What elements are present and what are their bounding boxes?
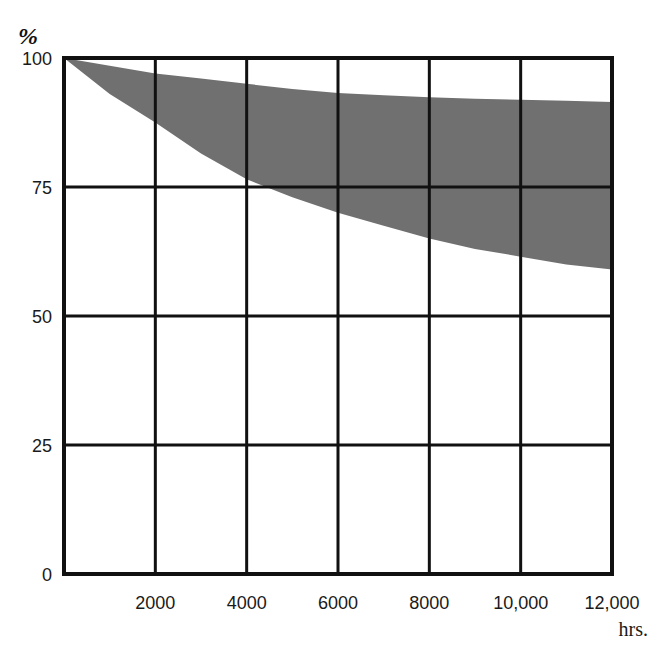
- y-axis-unit-label: %: [18, 23, 38, 49]
- x-tick-label: 4000: [227, 593, 267, 613]
- x-axis-ticks: 200040006000800010,00012,000: [135, 593, 639, 613]
- y-tick-label: 75: [32, 178, 52, 198]
- y-tick-label: 100: [22, 49, 52, 69]
- x-tick-label: 12,000: [584, 593, 639, 613]
- x-tick-label: 6000: [318, 593, 358, 613]
- x-tick-label: 2000: [135, 593, 175, 613]
- x-axis-unit-label: hrs.: [619, 618, 648, 640]
- x-tick-label: 10,000: [493, 593, 548, 613]
- y-tick-label: 0: [42, 565, 52, 585]
- y-tick-label: 50: [32, 307, 52, 327]
- x-tick-label: 8000: [409, 593, 449, 613]
- y-axis-ticks: 0255075100: [22, 49, 52, 585]
- y-tick-label: 25: [32, 436, 52, 456]
- chart: 0255075100 200040006000800010,00012,000 …: [0, 0, 659, 648]
